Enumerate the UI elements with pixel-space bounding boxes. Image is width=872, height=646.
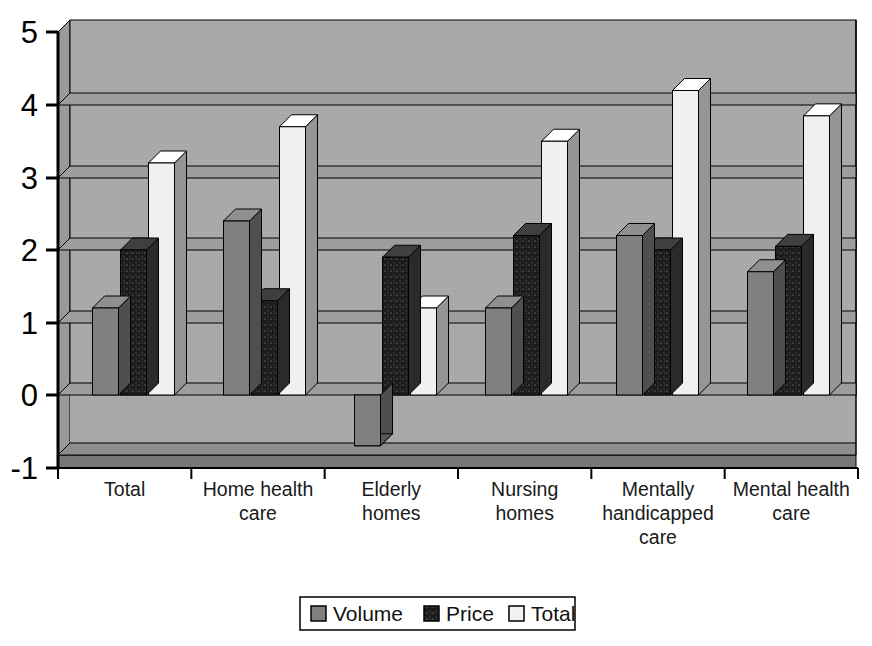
legend-swatch-price	[424, 606, 439, 621]
x-axis-label-4: handicapped	[602, 502, 714, 524]
bar-front-face	[383, 257, 409, 395]
bar-side-face	[250, 209, 262, 395]
bar-front-face	[486, 308, 512, 395]
y-tick-label-neg1: -1	[10, 451, 38, 486]
bar-side-face	[409, 245, 421, 395]
bar-side-face	[147, 238, 159, 395]
legend-label-total: Total	[531, 602, 575, 625]
x-axis-label-5: Mental health	[733, 478, 850, 500]
bar-side-face	[278, 289, 290, 395]
bar-front-face	[355, 395, 381, 446]
bar-side-face	[437, 296, 449, 395]
x-axis-label-4: Mentally	[622, 478, 695, 500]
gridline-4	[58, 93, 856, 105]
chart-container: 5 4 3 2 1 0 -1 TotalHome healthcareElder…	[0, 0, 872, 646]
y-tick-label-2: 2	[21, 233, 38, 268]
bar-side-face	[175, 151, 187, 395]
bar-side-face	[671, 238, 683, 395]
bar-front-face	[617, 236, 643, 396]
bar-chart-3d: 5 4 3 2 1 0 -1 TotalHome healthcareElder…	[0, 0, 872, 646]
plot-floor-top	[58, 443, 856, 455]
bar-side-face	[774, 260, 786, 395]
bar-side-face	[802, 234, 814, 395]
bar-side-face	[540, 224, 552, 396]
bar-front-face	[748, 272, 774, 395]
y-tick-label-0: 0	[21, 378, 38, 413]
y-tick-label-1: 1	[21, 306, 38, 341]
legend-swatch-total	[509, 606, 524, 621]
y-tick-label-3: 3	[21, 161, 38, 196]
bar-volume-5	[748, 260, 786, 395]
x-axis-label-1: care	[239, 502, 277, 524]
bar-volume-4	[617, 224, 655, 396]
plot-back-wall	[70, 20, 856, 395]
legend: Volume Price Total	[300, 597, 575, 630]
legend-swatch-volume	[311, 606, 326, 621]
x-axis-label-5: care	[772, 502, 810, 524]
bar-side-face	[643, 224, 655, 396]
bar-front-face	[224, 221, 250, 395]
x-axis-label-2: Elderly	[362, 478, 422, 500]
legend-label-volume: Volume	[333, 602, 403, 625]
x-axis-label-3: homes	[495, 502, 554, 524]
y-tick-label-4: 4	[21, 88, 38, 123]
x-axis-label-3: Nursing	[491, 478, 558, 500]
bar-side-face	[568, 129, 580, 395]
bar-side-face	[119, 296, 131, 395]
bar-volume-1	[224, 209, 262, 395]
bar-volume-3	[486, 296, 524, 395]
y-tick-label-5: 5	[21, 15, 38, 50]
bar-price-2	[383, 245, 421, 395]
x-axis-label-0: Total	[104, 478, 145, 500]
plot-floor-front	[58, 455, 856, 468]
x-axis-label-4: care	[639, 526, 677, 548]
bar-side-face	[512, 296, 524, 395]
bar-volume-0	[93, 296, 131, 395]
legend-label-price: Price	[446, 602, 494, 625]
bar-side-face	[306, 115, 318, 395]
x-axis-label-2: homes	[362, 502, 421, 524]
bar-side-face	[830, 104, 842, 395]
bar-side-face	[699, 79, 711, 396]
bar-front-face	[93, 308, 119, 395]
x-axis-label-1: Home health	[203, 478, 314, 500]
